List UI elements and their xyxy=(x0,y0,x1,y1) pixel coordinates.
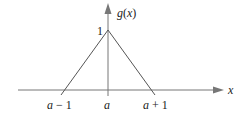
y-axis-arrow-icon xyxy=(105,3,112,14)
tick-label-a: a xyxy=(104,98,110,112)
x-axis-arrow-icon xyxy=(213,87,224,94)
peak-value-label: 1 xyxy=(97,24,103,38)
tick-label-a-minus-1: a − 1 xyxy=(47,98,72,112)
x-axis-label: x xyxy=(227,83,234,97)
triangle-function-diagram: g(x) x 1 a − 1 a a + 1 xyxy=(0,0,245,117)
tick-label-a-plus-1: a + 1 xyxy=(143,98,168,112)
y-axis-label: g(x) xyxy=(117,6,136,20)
